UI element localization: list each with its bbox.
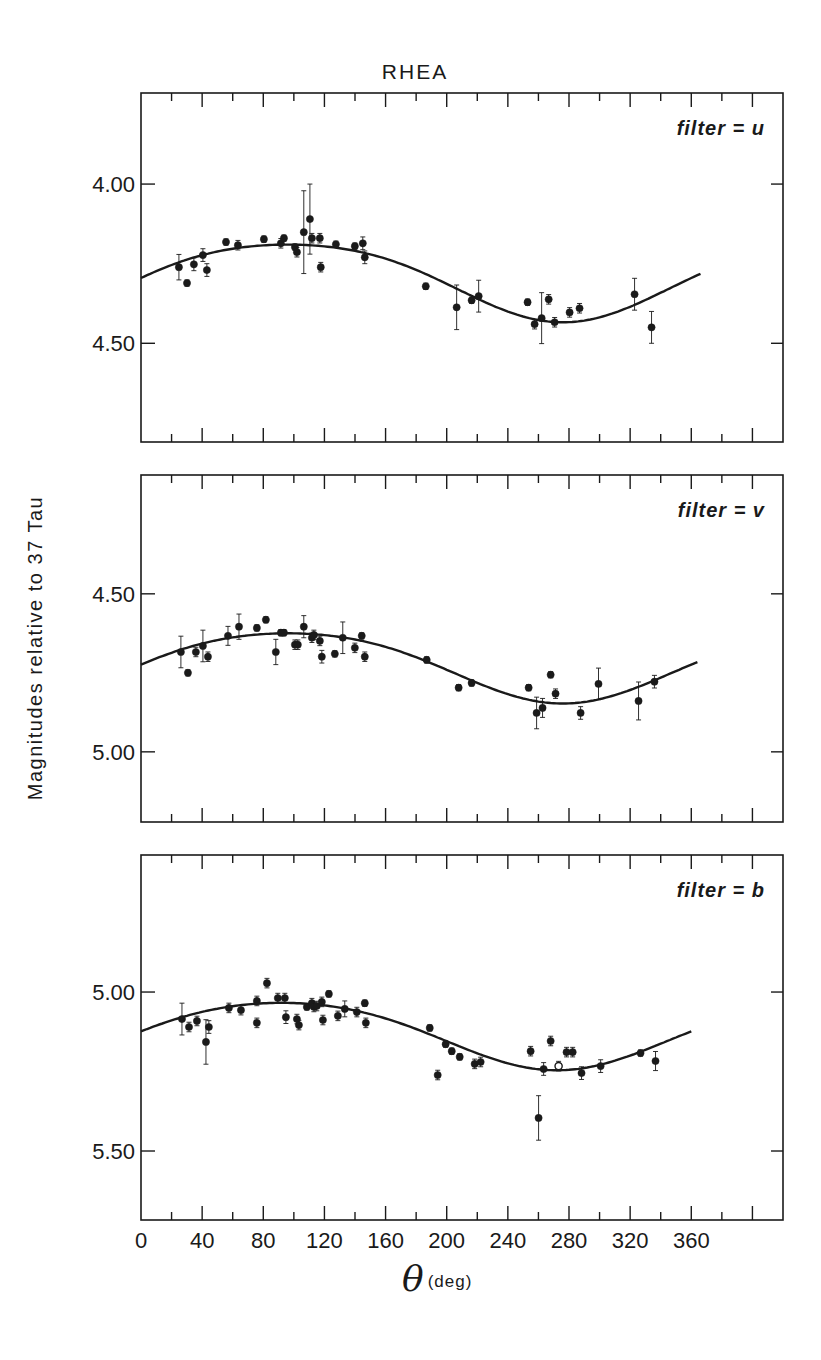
data-point [280, 629, 287, 636]
x-tick-label: 240 [489, 1228, 526, 1253]
data-point [468, 679, 475, 686]
data-point [177, 648, 184, 655]
data-point [539, 704, 546, 711]
data-point [316, 235, 323, 242]
filter-label: filter = v [678, 499, 766, 521]
y-tick-label: 5.50 [92, 1139, 135, 1164]
data-point [190, 261, 197, 268]
data-point [351, 644, 358, 651]
data-point [306, 215, 313, 222]
x-tick-label: 160 [367, 1228, 404, 1253]
data-point [637, 1049, 644, 1056]
filter-label: filter = u [677, 117, 765, 139]
data-point [525, 684, 532, 691]
data-point [253, 1019, 260, 1026]
data-point [332, 241, 339, 248]
x-tick-label: 320 [612, 1228, 649, 1253]
data-point [652, 1057, 659, 1064]
data-point [318, 653, 325, 660]
panel-frame [141, 855, 783, 1220]
x-tick-label: 120 [306, 1228, 343, 1253]
data-point [319, 1016, 326, 1023]
data-point [235, 623, 242, 630]
data-point [359, 240, 366, 247]
data-point [595, 680, 602, 687]
data-point [538, 315, 545, 322]
data-point [524, 299, 531, 306]
data-point [300, 229, 307, 236]
data-point [202, 1038, 209, 1045]
panel-frame [141, 93, 783, 442]
data-point [317, 264, 324, 271]
plot-area: 4.004.50filter = u 4.505.00filter = v 5.… [0, 0, 821, 1360]
data-point [293, 249, 300, 256]
panel-filter-b: 5.005.50filter = b [92, 855, 783, 1220]
data-point [533, 709, 540, 716]
data-point [260, 236, 267, 243]
data-point [262, 616, 269, 623]
y-tick-label: 4.50 [92, 331, 135, 356]
data-point [448, 1048, 455, 1055]
data-point [362, 1019, 369, 1026]
data-point [555, 1063, 562, 1070]
fit-curve [141, 633, 697, 703]
data-point [456, 1053, 463, 1060]
data-point [185, 1023, 192, 1030]
y-axis-label: Magnitudes relative to 37 Tau [24, 496, 47, 800]
data-point [631, 291, 638, 298]
rhea-lightcurve-figure: RHEA Magnitudes relative to 37 Tau 4.004… [0, 0, 821, 1360]
data-point [205, 1023, 212, 1030]
data-point [253, 997, 260, 1004]
data-point [651, 678, 658, 685]
data-point [353, 1008, 360, 1015]
panel-filter-u: 4.004.50filter = u [92, 93, 783, 442]
data-point [341, 1005, 348, 1012]
data-point [203, 266, 210, 273]
x-axis: 04080120160200240280320360 [135, 1228, 710, 1253]
y-tick-label: 5.00 [92, 740, 135, 765]
data-point [234, 242, 241, 249]
data-point [300, 623, 307, 630]
data-point [222, 238, 229, 245]
data-point [423, 656, 430, 663]
data-point [351, 243, 358, 250]
data-point [648, 324, 655, 331]
data-point [184, 669, 191, 676]
x-tick-label: 200 [428, 1228, 465, 1253]
theta-symbol: θ [402, 1258, 424, 1299]
data-point [453, 304, 460, 311]
data-point [334, 1012, 341, 1019]
data-point [597, 1063, 604, 1070]
data-point [577, 709, 584, 716]
data-point [325, 990, 332, 997]
data-point [547, 671, 554, 678]
data-point [204, 653, 211, 660]
data-point [547, 1037, 554, 1044]
data-point [282, 1014, 289, 1021]
y-tick-label: 4.50 [92, 582, 135, 607]
data-point [578, 1070, 585, 1077]
data-point [422, 283, 429, 290]
y-tick-label: 4.00 [92, 172, 135, 197]
data-point [361, 1000, 368, 1007]
data-point [192, 648, 199, 655]
data-point [316, 637, 323, 644]
data-point [576, 305, 583, 312]
data-point [552, 690, 559, 697]
x-tick-label: 80 [251, 1228, 275, 1253]
x-axis-unit: (deg) [428, 1272, 473, 1291]
data-point [635, 697, 642, 704]
data-point [225, 1004, 232, 1011]
data-point [527, 1048, 534, 1055]
data-point [318, 998, 325, 1005]
filter-label: filter = b [677, 879, 765, 901]
panel-frame [141, 475, 783, 822]
x-axis-label: θ(deg) [402, 1258, 472, 1299]
data-point [175, 264, 182, 271]
data-point [434, 1071, 441, 1078]
y-tick-label: 5.00 [92, 980, 135, 1005]
data-point [358, 632, 365, 639]
data-point [551, 319, 558, 326]
data-point [193, 1017, 200, 1024]
data-point [531, 321, 538, 328]
